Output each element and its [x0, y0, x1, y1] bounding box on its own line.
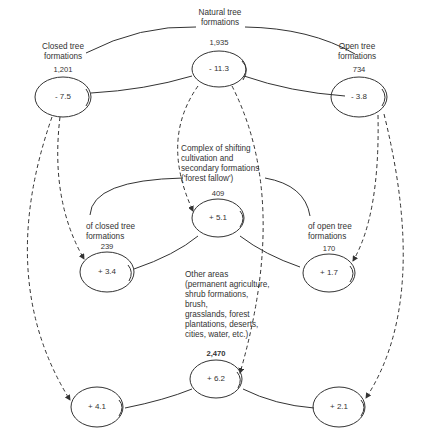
- node-other-right-change: + 2.1: [319, 402, 359, 411]
- edge-fallow-closedfallow: [134, 236, 198, 269]
- label-line: of closed tree: [86, 222, 135, 232]
- label-line: formations: [185, 18, 255, 28]
- flow-closed-to-other-left: [27, 117, 70, 400]
- fallow-label-leader-right: [265, 178, 310, 216]
- node-fallow-label: Complex of shifting cultivation and seco…: [181, 144, 259, 184]
- fallow-label-leader-left: [90, 178, 183, 215]
- label-line: Closed tree: [30, 42, 96, 52]
- node-closed-area: 1,201: [43, 65, 83, 74]
- node-open-area: 734: [339, 65, 379, 74]
- node-closed-label: Closed tree formations: [30, 42, 96, 62]
- node-fallow-area: 409: [198, 189, 238, 198]
- node-fallow-open-change: + 1.7: [309, 268, 349, 277]
- label-line: formations: [308, 232, 352, 242]
- node-other-change: + 6.2: [196, 374, 236, 383]
- label-line: grasslands, forest: [185, 310, 270, 320]
- flow-open-to-fallow-open: [353, 115, 378, 261]
- node-natural-label: Natural tree formations: [185, 8, 255, 28]
- label-line: brush,: [185, 300, 270, 310]
- edge-natural-open: [244, 76, 345, 96]
- label-line: shrub formations,: [185, 290, 270, 300]
- label-line: Natural tree: [185, 8, 255, 18]
- label-line: Complex of shifting: [181, 144, 259, 154]
- node-open-label: Open tree formations: [324, 42, 390, 62]
- label-line: secondary formations: [181, 164, 259, 174]
- label-line: cities, water, etc.): [185, 330, 270, 340]
- edge-fallow-openfallow: [240, 236, 300, 267]
- label-line: formations: [324, 52, 390, 62]
- edge-other-right: [243, 389, 314, 408]
- node-other-label: Other areas (permanent agriculture, shru…: [185, 270, 270, 340]
- node-fallow-closed-label: of closed tree formations: [86, 222, 135, 242]
- node-fallow-open-area: 170: [309, 244, 349, 253]
- flow-open-to-other-right: [366, 114, 403, 398]
- node-other-left-change: + 4.1: [77, 402, 117, 411]
- node-other-area: 2,470: [196, 349, 236, 358]
- label-line: Other areas: [185, 270, 270, 280]
- edge-natural-closed: [91, 76, 192, 93]
- node-fallow-closed-change: + 3.4: [87, 267, 127, 276]
- node-natural-change: - 11.3: [199, 64, 239, 73]
- node-open-change: - 3.8: [339, 92, 379, 101]
- node-closed-change: - 7.5: [43, 92, 83, 101]
- label-line: (permanent agriculture,: [185, 280, 270, 290]
- node-fallow-open-label: of open tree formations: [308, 222, 352, 242]
- flow-closed-to-fallow-closed: [58, 117, 84, 259]
- label-line: cultivation and: [181, 154, 259, 164]
- label-line: plantations, deserts,: [185, 320, 270, 330]
- node-fallow-change: + 5.1: [198, 213, 238, 222]
- label-line: of open tree: [308, 222, 352, 232]
- label-line: formations: [30, 52, 96, 62]
- label-line: ('forest fallow'): [181, 174, 259, 184]
- label-line: Open tree: [324, 42, 390, 52]
- node-natural-area: 1,935: [199, 38, 239, 47]
- label-line: formations: [86, 232, 135, 242]
- natural-label-leader-left: [86, 27, 196, 53]
- edge-other-left: [125, 389, 192, 408]
- node-fallow-closed-area: 239: [87, 242, 127, 251]
